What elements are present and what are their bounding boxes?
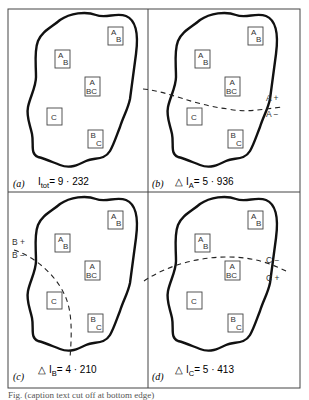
panel-a: A B A B A BC C B C (a) Itot= 9 · 232 [13, 13, 137, 190]
box-abc: A BC [85, 77, 100, 96]
box-c: C [47, 108, 62, 125]
panel-b: A B A B A BC C B C A + A − (b) △IA= 5 · … [143, 13, 283, 190]
svg-text:B: B [116, 35, 121, 44]
box-ab-top-right: A B [108, 27, 123, 45]
svg-text:C: C [236, 139, 242, 148]
box-ab-left: A B [55, 50, 70, 68]
panel-label: (b) [152, 178, 164, 190]
box-abc: A BC [225, 77, 240, 96]
svg-text:C: C [96, 323, 102, 332]
box-ab-top-right: A B [248, 211, 263, 229]
svg-text:BC: BC [226, 87, 237, 96]
box-bc: B C [88, 314, 103, 332]
panel-label: (a) [13, 178, 25, 190]
svg-text:BC: BC [86, 87, 97, 96]
partition-label-negative: C − [266, 255, 280, 265]
panel-equation: Itot= 9 · 232 [38, 176, 89, 190]
delta-icon: △ [38, 364, 46, 375]
svg-text:C: C [236, 323, 242, 332]
svg-text:C: C [191, 297, 197, 306]
box-ab-top-right: A B [108, 211, 123, 229]
box-c: C [187, 292, 202, 309]
box-bc: B C [228, 130, 243, 148]
svg-text:B: B [256, 35, 261, 44]
svg-text:BC: BC [86, 271, 97, 280]
panel-c: A B A B A BC C B C B + B − (c) △IB= 4 · … [12, 197, 137, 383]
partition-label-negative: B − [12, 250, 25, 260]
panel-equation: △IC= 5 · 413 [175, 364, 234, 378]
delta-icon: △ [175, 364, 183, 375]
box-ab-left: A B [195, 50, 210, 68]
svg-text:BC: BC [226, 271, 237, 280]
box-c: C [47, 292, 62, 309]
partition-label-positive: B + [12, 237, 25, 247]
partition-line-c [144, 257, 286, 281]
box-bc: B C [228, 314, 243, 332]
svg-text:C: C [96, 139, 102, 148]
svg-text:C: C [51, 113, 57, 122]
box-ab-left: A B [195, 234, 210, 252]
svg-text:B: B [116, 219, 121, 228]
partition-label-positive: A + [266, 93, 279, 103]
box-bc: B C [88, 130, 103, 148]
box-ab-left: A B [55, 234, 70, 252]
partition-label-negative: A − [266, 109, 279, 119]
panel-label: (d) [152, 371, 164, 383]
svg-text:B: B [63, 242, 68, 251]
svg-text:B: B [203, 242, 208, 251]
box-abc: A BC [225, 261, 240, 280]
partition-label-positive: C + [266, 273, 280, 283]
partition-line-a [143, 89, 283, 111]
box-abc: A BC [85, 261, 100, 280]
box-ab-top-right: A B [248, 27, 263, 45]
svg-text:C: C [51, 297, 57, 306]
svg-text:B: B [256, 219, 261, 228]
box-c: C [187, 108, 202, 125]
figure-caption: Fig. (caption text cut off at bottom edg… [8, 390, 154, 400]
panel-label: (c) [13, 371, 25, 383]
delta-icon: △ [175, 176, 183, 187]
panel-d: A B A B A BC C B C C − C + (d) △IC= 5 · … [144, 197, 286, 383]
panel-equation: △IB= 4 · 210 [38, 364, 97, 378]
panel-equation: △IA= 5 · 936 [175, 176, 234, 190]
svg-text:C: C [191, 113, 197, 122]
svg-text:B: B [203, 58, 208, 67]
svg-text:B: B [63, 58, 68, 67]
